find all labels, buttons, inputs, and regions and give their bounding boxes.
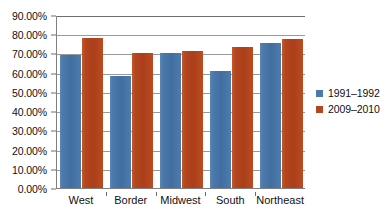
y-axis-tick-label: 80.00% <box>12 30 47 41</box>
y-axis-tick-label: 60.00% <box>12 68 47 79</box>
y-axis-tick-label: 50.00% <box>12 88 47 99</box>
x-axis-tick-label: Northeast <box>256 195 304 206</box>
y-axis-tick-label: 0.00% <box>18 184 47 195</box>
bar[interactable] <box>260 43 281 188</box>
bar[interactable] <box>160 53 181 188</box>
bar[interactable] <box>232 47 253 188</box>
y-axis-tick-label: 40.00% <box>12 107 47 118</box>
x-axis-tick-label: West <box>68 195 93 206</box>
bars-layer <box>57 16 305 188</box>
y-axis-tick-label: 10.00% <box>12 165 47 176</box>
bar[interactable] <box>282 39 303 188</box>
legend-label: 1991–1992 <box>328 88 380 99</box>
legend-swatch-icon <box>316 106 323 113</box>
chart-legend: 1991–19922009–2010 <box>316 86 385 118</box>
y-axis: 0.00%10.00%20.00%30.00%40.00%50.00%60.00… <box>0 0 56 222</box>
x-axis-tick-label: Midwest <box>160 195 200 206</box>
bar-chart-figure: 0.00%10.00%20.00%30.00%40.00%50.00%60.00… <box>0 0 385 222</box>
bar[interactable] <box>210 71 231 188</box>
legend-label: 2009–2010 <box>328 104 380 115</box>
y-axis-tick-label: 30.00% <box>12 126 47 137</box>
bar-group <box>160 16 203 188</box>
bar[interactable] <box>110 76 131 188</box>
bar-group <box>110 16 153 188</box>
plot-area <box>56 16 305 189</box>
bar-group <box>210 16 253 188</box>
bar[interactable] <box>182 51 203 188</box>
y-axis-tick-label: 20.00% <box>12 145 47 156</box>
x-axis-tick-label: South <box>216 195 245 206</box>
x-axis-tick-mark <box>205 192 206 196</box>
x-axis: WestBorderMidwestSouthNortheast <box>56 192 305 218</box>
x-axis-tick-mark <box>106 192 107 196</box>
bar[interactable] <box>132 53 153 188</box>
legend-entry[interactable]: 2009–2010 <box>316 102 385 117</box>
bar-group <box>60 16 103 188</box>
x-axis-tick-label: Border <box>114 195 147 206</box>
legend-entry[interactable]: 1991–1992 <box>316 86 385 101</box>
x-axis-tick-mark <box>156 192 157 196</box>
y-axis-tick-label: 90.00% <box>12 11 47 22</box>
bar[interactable] <box>60 55 81 188</box>
bar[interactable] <box>82 38 103 188</box>
bar-group <box>260 16 303 188</box>
legend-swatch-icon <box>316 90 323 97</box>
y-axis-tick-label: 70.00% <box>12 49 47 60</box>
